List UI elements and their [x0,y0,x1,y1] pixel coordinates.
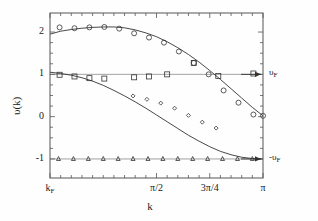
marker-mid-branch-diamonds [131,94,135,98]
marker-flat-branch-triangles [161,156,165,160]
plot-frame [50,13,263,178]
marker-flat-branch-triangles [86,156,90,160]
marker-lower-branch-squares [132,75,137,80]
marker-upper-branch-circles [161,40,166,45]
x-axis-label-text: k [147,200,153,212]
y-tick-label-3: -1 [16,152,44,163]
marker-mid-branch-diamonds [186,113,190,117]
marker-flat-branch-triangles [221,156,225,160]
marker-upper-branch-circles [57,25,62,30]
marker-mid-branch-diamonds [214,126,218,130]
marker-flat-branch-triangles [206,156,210,160]
marker-flat-branch-triangles [176,156,180,160]
marker-upper-branch-circles [236,100,241,105]
x-tick-label-3: π [243,182,283,193]
marker-upper-branch-circles [72,26,77,31]
marker-mid-branch-diamonds [159,101,163,105]
marker-flat-branch-triangles [101,156,105,160]
marker-flat-branch-triangles [116,156,120,160]
marker-flat-branch-triangles [57,156,61,160]
marker-upper-branch-circles [221,88,226,93]
annotation-arrow-head-0 [255,72,261,77]
marker-upper-branch-circles [191,60,196,65]
y-tick-label-2: 0 [16,110,44,121]
figure-root: υ(k) k 210-1kFπ/23π/4πυF-υF [0,0,318,221]
marker-upper-branch-circles [147,35,152,40]
marker-upper-branch-circles [117,26,122,31]
marker-mid-branch-diamonds [200,120,204,124]
x-tick-label-2: 3π/4 [190,182,230,193]
marker-upper-branch-circles [251,112,256,117]
marker-flat-branch-triangles [131,156,135,160]
upper-theory-curve [50,27,263,116]
marker-upper-branch-circles [176,49,181,54]
marker-lower-branch-squares [102,76,107,81]
marker-flat-branch-triangles [191,156,195,160]
annotation-arrow-head-1 [255,156,261,161]
x-tick-label-0: kF [30,182,70,195]
marker-flat-branch-triangles [71,156,75,160]
marker-flat-branch-triangles [235,156,239,160]
marker-mid-branch-diamonds [173,106,177,110]
marker-upper-branch-circles [132,31,137,36]
x-tick-label-1: π/2 [137,182,177,193]
y-tick-label-0: 2 [16,25,44,36]
lower-theory-curve [50,72,263,159]
annotation-label-1: -υF [269,152,280,164]
x-axis-label: k [130,200,170,212]
y-tick-label-1: 1 [16,67,44,78]
annotation-label-0: υF [269,67,277,79]
marker-flat-branch-triangles [146,156,150,160]
marker-mid-branch-diamonds [145,97,149,101]
